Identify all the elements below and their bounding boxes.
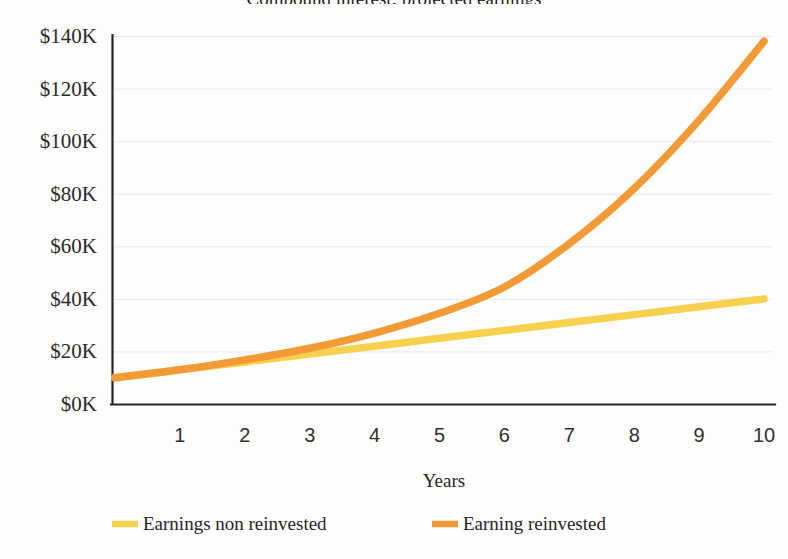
gridlines (114, 37, 772, 352)
x-tick-label: 1 (174, 424, 185, 446)
chart-legend: Earnings non reinvestedEarning reinveste… (112, 513, 606, 534)
x-tick-label: 2 (239, 424, 250, 446)
x-axis-tick-labels: 12345678910 (174, 424, 775, 446)
y-tick-label: $120K (40, 77, 97, 101)
x-tick-label: 4 (369, 424, 380, 446)
x-tick-label: 7 (564, 424, 575, 446)
y-tick-label: $80K (50, 182, 97, 206)
y-tick-label: $60K (50, 234, 97, 258)
y-tick-label: $20K (50, 339, 97, 363)
x-tick-label: 8 (629, 424, 640, 446)
x-tick-label: 10 (753, 424, 775, 446)
y-axis-tick-labels: $0K$20K$40K$60K$80K$100K$120K$140K (40, 24, 97, 416)
x-tick-label: 3 (304, 424, 315, 446)
y-tick-label: $140K (40, 24, 97, 48)
y-tick-label: $40K (50, 287, 97, 311)
y-tick-label: $0K (61, 392, 97, 416)
x-tick-label: 5 (434, 424, 445, 446)
legend-label: Earnings non reinvested (143, 513, 327, 534)
y-tick-label: $100K (40, 129, 97, 153)
chart-container: Compound interest: projected earnings $0… (0, 0, 788, 559)
x-tick-label: 6 (499, 424, 510, 446)
x-tick-label: 9 (694, 424, 705, 446)
series-line (115, 41, 764, 377)
chart-plot: $0K$20K$40K$60K$80K$100K$120K$140K 12345… (0, 0, 788, 559)
series-lines (115, 41, 764, 377)
x-axis-title: Years (423, 470, 465, 491)
legend-label: Earning reinvested (463, 513, 606, 534)
